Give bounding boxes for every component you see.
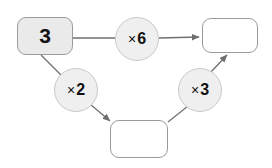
operation-multiply-two[interactable]: × 2 (54, 68, 98, 112)
operation-three-operand: 3 (200, 81, 209, 99)
multiply-sign-icon: × (67, 82, 75, 98)
multiply-sign-icon: × (191, 82, 199, 98)
edge-output-bottom-to-op3 (168, 106, 188, 122)
input-value-box[interactable]: 3 (17, 17, 73, 55)
edge-op2-to-output-bottom (90, 104, 110, 121)
operation-multiply-six[interactable]: × 6 (115, 17, 159, 61)
operation-two-operand: 2 (76, 81, 85, 99)
output-answer-box-bottom[interactable] (110, 120, 168, 158)
multiply-sign-icon: × (128, 31, 136, 47)
edge-input-to-op2 (41, 55, 62, 76)
output-answer-box-top[interactable] (202, 18, 258, 53)
input-value-label: 3 (39, 24, 51, 48)
edge-op6-to-output-top (159, 37, 199, 38)
operation-six-operand: 6 (137, 30, 146, 48)
operation-multiply-three[interactable]: × 3 (178, 68, 222, 112)
edge-op3-to-output-top (210, 55, 227, 73)
function-machine-diagram: 3 × 6 × 2 × 3 (0, 0, 272, 168)
